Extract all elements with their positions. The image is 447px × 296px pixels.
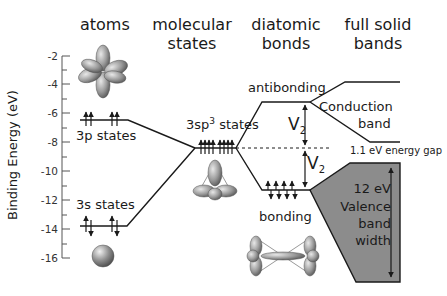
y-axis-label: Binding Energy (eV) [6, 90, 19, 220]
v2-sub: 2 [319, 164, 325, 175]
label-v2-upper: V2 [288, 116, 306, 136]
tick-label: -12 [32, 195, 58, 206]
tick-label: -14 [32, 224, 58, 235]
tick-label: -16 [32, 253, 58, 264]
tick-label: -2 [32, 51, 58, 62]
label-valence-2: Valence [339, 200, 391, 213]
label-bonding: bonding [259, 210, 312, 223]
tick-label: -6 [32, 108, 58, 119]
v2-sub: 2 [300, 125, 306, 136]
energy-level-diagram: atoms molecular states diatomic bonds fu… [0, 0, 447, 296]
p-orbital-image [76, 45, 129, 98]
column-title-diatomic-1: diatomic [250, 17, 322, 33]
column-title-molecular-2: states [152, 36, 232, 52]
column-title-solid-2: bands [338, 36, 418, 52]
column-title-diatomic-2: bonds [250, 36, 322, 52]
column-title-molecular-1: molecular [152, 17, 232, 33]
label-conduction-2: band [358, 117, 391, 130]
column-title-atoms: atoms [80, 17, 128, 33]
3p-electrons [86, 112, 117, 126]
label-valence-1: 12 eV [351, 182, 391, 195]
y-axis [62, 56, 70, 258]
v2-main: V [288, 114, 300, 134]
label-3p-states: 3p states [76, 129, 136, 142]
v2-main: V [307, 153, 319, 173]
tick-label: -10 [32, 166, 58, 177]
column-title-solid-1: full solid [338, 17, 418, 33]
sp3-orbital-image [193, 160, 237, 200]
label-sp3-states: 3sp3 states [186, 117, 259, 131]
bonding-orbital-image [247, 236, 319, 276]
sp3-suffix: states [215, 117, 259, 132]
tick-label: -8 [32, 137, 58, 148]
s-orbital-image [92, 245, 114, 267]
label-antibonding: antibonding [248, 81, 326, 94]
label-3s-states: 3s states [76, 198, 135, 211]
label-conduction-1: Conduction [319, 100, 393, 113]
sp3-electrons [201, 140, 232, 154]
label-energy-gap: 1.1 eV energy gap [350, 146, 442, 156]
label-v2-lower: V2 [307, 155, 325, 175]
label-valence-4: width [351, 234, 391, 247]
label-valence-3: band [351, 217, 391, 230]
sp3-prefix: 3sp [186, 117, 209, 132]
tick-label: -4 [32, 79, 58, 90]
